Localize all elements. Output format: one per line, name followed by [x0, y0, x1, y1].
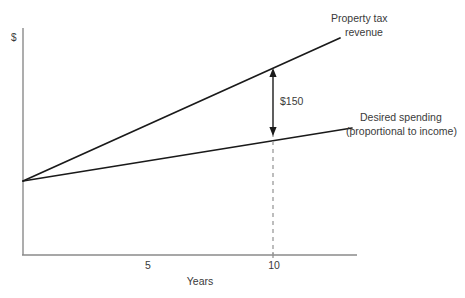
series-line-desired-spending	[23, 128, 352, 181]
x-axis-title: Years	[170, 274, 230, 288]
x-tick-label-5: 5	[141, 258, 155, 272]
gap-annotation-label: $150	[280, 94, 303, 108]
series-label-line-2: (proportional to income)	[346, 124, 465, 138]
chart-figure: $ 5 10 Years Property tax revenue Desire…	[0, 0, 465, 298]
gap-double-arrow	[269, 68, 276, 136]
series-label-line-1: Property tax	[323, 11, 427, 25]
x-tick-label-10: 10	[265, 258, 283, 272]
y-axis-label: $	[11, 31, 17, 45]
series-label-line-2: revenue	[323, 25, 427, 39]
series-line-property-tax-revenue	[23, 38, 340, 181]
series-label-desired-spending: Desired spending (proportional to income…	[346, 110, 465, 138]
chart-canvas	[0, 0, 465, 298]
series-label-property-tax-revenue: Property tax revenue	[323, 11, 427, 39]
series-label-line-1: Desired spending	[346, 110, 465, 124]
